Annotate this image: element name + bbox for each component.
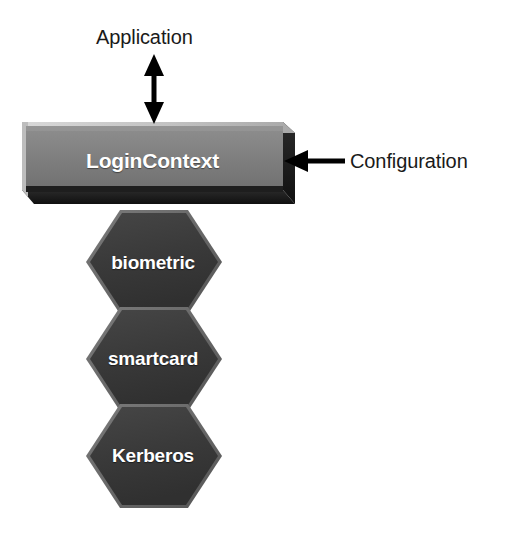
login-module-label-kerberos: Kerberos: [80, 446, 226, 465]
login-module-label-biometric: biometric: [80, 253, 226, 272]
box-face-highlight: [26, 126, 283, 131]
diagram-canvas: Application Configuration LoginContext b…: [0, 0, 508, 539]
configuration-label: Configuration: [350, 151, 468, 171]
application-arrow: [144, 54, 164, 124]
arrow-head-up: [144, 54, 164, 76]
login-module-label-smartcard: smartcard: [80, 349, 226, 368]
arrow-head-down: [144, 102, 164, 124]
box-bottom-bevel: [22, 190, 295, 204]
logincontext-label: LoginContext: [22, 150, 283, 171]
diagram-graphics: [0, 0, 508, 539]
application-label: Application: [96, 27, 193, 47]
box-face-shadow: [26, 186, 283, 192]
